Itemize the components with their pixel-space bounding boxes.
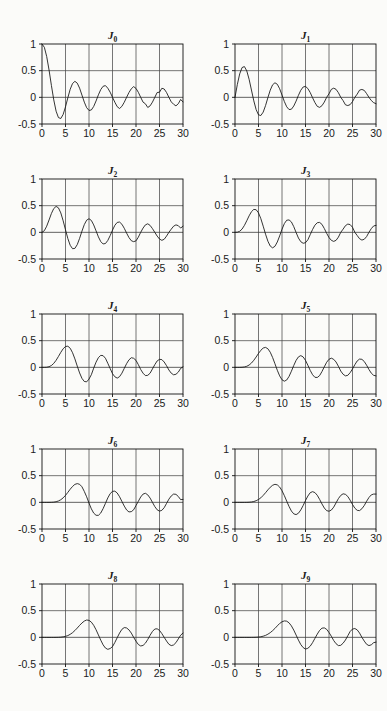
y-tick-label: 0.5 — [214, 604, 229, 616]
x-tick-label: 15 — [107, 262, 119, 274]
x-tick-label: 5 — [63, 127, 69, 139]
x-tick-label: 15 — [107, 667, 119, 679]
y-tick-label: 0 — [223, 226, 229, 238]
x-tick-label: 30 — [177, 127, 189, 139]
x-tick-label: 25 — [154, 397, 166, 409]
x-tick-label: 10 — [83, 532, 95, 544]
y-tick-label: 0 — [30, 631, 36, 643]
y-tick-label: 1 — [30, 308, 36, 320]
x-tick-label: 25 — [154, 262, 166, 274]
y-tick-label: 0.5 — [21, 334, 36, 346]
x-tick-label: 20 — [323, 667, 335, 679]
y-tick-label: 0.5 — [214, 469, 229, 481]
chart-panel: 051015202530-0.500.51J9 — [193, 554, 387, 689]
y-tick-label: -0.5 — [211, 118, 229, 130]
y-tick-label: 0.5 — [21, 604, 36, 616]
x-tick-label: 0 — [39, 262, 45, 274]
bessel-functions-figure: 051015202530-0.500.51J0051015202530-0.50… — [0, 0, 387, 711]
y-tick-label: 0 — [30, 496, 36, 508]
x-tick-label: 15 — [300, 397, 312, 409]
x-tick-label: 15 — [300, 127, 312, 139]
x-tick-label: 30 — [177, 262, 189, 274]
x-tick-label: 0 — [232, 127, 238, 139]
y-tick-label: -0.5 — [211, 658, 229, 670]
y-tick-label: 1 — [30, 38, 36, 50]
x-tick-label: 0 — [232, 397, 238, 409]
x-tick-label: 30 — [370, 127, 382, 139]
x-tick-label: 15 — [300, 667, 312, 679]
y-tick-label: -0.5 — [18, 523, 36, 535]
chart-panel: 051015202530-0.500.51J3 — [193, 149, 387, 284]
y-tick-label: 0.5 — [214, 64, 229, 76]
x-tick-label: 20 — [323, 397, 335, 409]
x-tick-label: 5 — [63, 667, 69, 679]
x-tick-label: 25 — [154, 667, 166, 679]
x-tick-label: 30 — [177, 667, 189, 679]
x-tick-label: 20 — [130, 667, 142, 679]
chart-panel: 051015202530-0.500.51J5 — [193, 284, 387, 419]
x-tick-label: 30 — [370, 667, 382, 679]
x-tick-label: 10 — [83, 667, 95, 679]
y-tick-label: 1 — [223, 38, 229, 50]
y-tick-label: 1 — [223, 308, 229, 320]
panel-title: J8 — [107, 569, 118, 584]
x-tick-label: 25 — [347, 262, 359, 274]
x-tick-label: 15 — [107, 127, 119, 139]
y-tick-label: -0.5 — [211, 388, 229, 400]
panel-title: J9 — [300, 569, 311, 584]
x-tick-label: 30 — [370, 397, 382, 409]
x-tick-label: 15 — [107, 397, 119, 409]
panel-title: J2 — [107, 164, 118, 179]
x-tick-label: 25 — [154, 127, 166, 139]
x-tick-label: 10 — [276, 667, 288, 679]
x-tick-label: 10 — [83, 127, 95, 139]
y-tick-label: 1 — [223, 173, 229, 185]
x-tick-label: 5 — [63, 262, 69, 274]
panel-title: J5 — [300, 299, 311, 314]
x-tick-label: 25 — [347, 667, 359, 679]
x-tick-label: 5 — [256, 127, 262, 139]
y-tick-label: 0.5 — [214, 199, 229, 211]
x-tick-label: 5 — [256, 397, 262, 409]
x-tick-label: 5 — [63, 532, 69, 544]
x-tick-label: 20 — [323, 532, 335, 544]
y-tick-label: 0 — [223, 361, 229, 373]
x-tick-label: 0 — [232, 532, 238, 544]
x-tick-label: 10 — [83, 397, 95, 409]
y-tick-label: -0.5 — [211, 253, 229, 265]
x-tick-label: 20 — [130, 127, 142, 139]
chart-panel: 051015202530-0.500.51J6 — [0, 419, 193, 554]
y-tick-label: 1 — [30, 443, 36, 455]
y-tick-label: 1 — [223, 443, 229, 455]
x-tick-label: 30 — [177, 532, 189, 544]
y-tick-label: -0.5 — [211, 523, 229, 535]
panel-title: J3 — [300, 164, 311, 179]
panel-title: J1 — [300, 29, 311, 44]
x-tick-label: 5 — [256, 262, 262, 274]
y-tick-label: -0.5 — [18, 118, 36, 130]
panel-title: J7 — [300, 434, 311, 449]
chart-panel: 051015202530-0.500.51J4 — [0, 284, 193, 419]
x-tick-label: 30 — [177, 397, 189, 409]
panel-title: J4 — [107, 299, 118, 314]
y-tick-label: -0.5 — [18, 253, 36, 265]
x-tick-label: 15 — [107, 532, 119, 544]
y-tick-label: -0.5 — [18, 658, 36, 670]
y-tick-label: 1 — [30, 173, 36, 185]
y-tick-label: 0.5 — [21, 199, 36, 211]
x-tick-label: 0 — [232, 262, 238, 274]
x-tick-label: 10 — [83, 262, 95, 274]
chart-panel: 051015202530-0.500.51J7 — [193, 419, 387, 554]
y-tick-label: -0.5 — [18, 388, 36, 400]
panel-grid: 051015202530-0.500.51J0051015202530-0.50… — [0, 14, 387, 689]
panel-title: J0 — [107, 29, 118, 44]
x-tick-label: 20 — [323, 262, 335, 274]
x-tick-label: 15 — [300, 262, 312, 274]
y-tick-label: 0 — [223, 631, 229, 643]
x-tick-label: 25 — [347, 532, 359, 544]
y-tick-label: 0 — [30, 91, 36, 103]
x-tick-label: 5 — [256, 532, 262, 544]
x-tick-label: 5 — [256, 667, 262, 679]
y-tick-label: 0.5 — [214, 334, 229, 346]
chart-panel: 051015202530-0.500.51J0 — [0, 14, 193, 149]
